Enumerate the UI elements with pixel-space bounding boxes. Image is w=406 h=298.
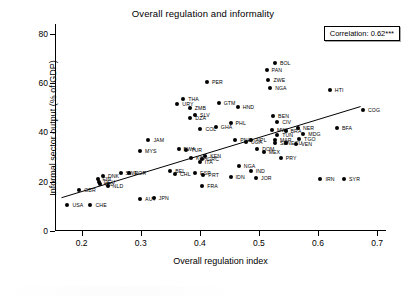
scatter-point — [205, 80, 209, 84]
figure-container: Overall regulation and informality 02040… — [0, 0, 406, 298]
point-label: HTI — [335, 87, 344, 93]
scatter-point — [275, 120, 279, 124]
point-label: DZA — [195, 115, 206, 121]
x-tick — [141, 231, 142, 236]
x-tick — [259, 231, 260, 236]
page-title: Overall regulation and informality — [0, 8, 406, 19]
scatter-point — [335, 126, 339, 130]
scatter-point — [254, 176, 258, 180]
point-label: COL — [205, 126, 216, 132]
point-label: BFA — [342, 125, 352, 131]
x-tick — [377, 231, 378, 236]
point-label: CIV — [282, 119, 291, 125]
point-label: CHL — [180, 171, 191, 177]
scatter-point — [184, 148, 188, 152]
point-label: PHL — [236, 120, 246, 126]
x-tick — [200, 231, 201, 236]
point-label: ZWE — [273, 77, 285, 83]
x-tick-label: 0.2 — [76, 238, 88, 248]
scatter-point — [217, 101, 221, 105]
y-tick-label: 40 — [39, 127, 48, 137]
point-label: GBR — [84, 187, 96, 193]
point-label: JPN — [159, 195, 169, 201]
scatter-point — [77, 188, 81, 192]
point-label: MEX — [269, 149, 281, 155]
point-label: NLD — [113, 183, 124, 189]
scatter-point — [342, 177, 346, 181]
scatter-point — [266, 78, 270, 82]
point-label: IND — [256, 168, 265, 174]
scatter-point — [175, 102, 179, 106]
point-label: PRY — [286, 155, 297, 161]
correlation-annotation: Correlation: 0.62*** — [324, 26, 400, 41]
y-tick-label: 80 — [39, 29, 48, 39]
point-label: USA — [72, 202, 83, 208]
scatter-point — [168, 169, 172, 173]
point-label: UGA — [251, 139, 263, 145]
plot-area: 020406080 0.20.30.40.50.60.7 BOLPANZWEPE… — [55, 24, 386, 231]
scatter-point — [189, 156, 193, 160]
scatter-point — [270, 128, 274, 132]
scatter-point — [255, 147, 259, 151]
y-axis-label: Informal sector output (% of GDP) — [48, 60, 58, 196]
point-label: JAM — [153, 137, 164, 143]
point-label: PAN — [272, 67, 283, 73]
scatter-point — [201, 173, 205, 177]
point-label: HND — [243, 104, 255, 110]
y-tick-label: 60 — [39, 78, 48, 88]
scatter-point — [328, 88, 332, 92]
scatter-point — [177, 147, 181, 151]
point-label: ITA — [205, 159, 213, 165]
scatter-point — [188, 116, 192, 120]
scatter-point — [284, 141, 288, 145]
scatter-point — [200, 184, 204, 188]
x-axis-label: Overall regulation index — [55, 256, 386, 266]
point-label: GHA — [221, 124, 233, 130]
point-label: SWE — [126, 170, 138, 176]
x-tick-label: 0.5 — [253, 238, 265, 248]
x-tick — [318, 231, 319, 236]
scatter-point — [268, 86, 272, 90]
scatter-point — [249, 169, 253, 173]
scatter-point — [98, 182, 102, 186]
x-tick — [82, 231, 83, 236]
point-label: BOL — [280, 60, 291, 66]
scatter-point — [138, 149, 142, 153]
scatter-point — [146, 138, 150, 142]
scatter-point — [229, 175, 233, 179]
scatter-point — [361, 108, 365, 112]
point-label: MYS — [145, 148, 157, 154]
y-tick-label: 0 — [43, 226, 48, 236]
point-label: ZMB — [195, 105, 206, 111]
point-label: FRA — [207, 183, 218, 189]
scatter-point — [119, 171, 123, 175]
point-label: BEN — [278, 113, 289, 119]
scatter-point — [106, 184, 110, 188]
scatter-point — [198, 160, 202, 164]
scatter-point — [88, 203, 92, 207]
scatter-point — [138, 197, 142, 201]
scatter-point — [279, 156, 283, 160]
scatter-point — [244, 140, 248, 144]
scatter-point — [273, 141, 277, 145]
point-label: IRN — [325, 176, 334, 182]
scatter-point — [193, 171, 197, 175]
point-label: NGA — [275, 85, 287, 91]
point-label: TUR — [191, 147, 202, 153]
scatter-point — [262, 150, 266, 154]
scatter-point — [188, 106, 192, 110]
scatter-point — [65, 203, 69, 207]
x-tick-label: 0.3 — [135, 238, 147, 248]
point-label: PRT — [208, 172, 219, 178]
scatter-point — [271, 114, 275, 118]
y-tick-label: 20 — [39, 177, 48, 187]
point-label: VEN — [301, 141, 312, 147]
x-tick-label: 0.7 — [371, 238, 383, 248]
caption-artifact — [0, 286, 406, 296]
scatter-point — [152, 196, 156, 200]
x-tick-label: 0.6 — [312, 238, 324, 248]
scatter-point — [173, 172, 177, 176]
y-tick — [50, 231, 55, 232]
scatter-point — [237, 164, 241, 168]
scatter-point — [273, 61, 277, 65]
